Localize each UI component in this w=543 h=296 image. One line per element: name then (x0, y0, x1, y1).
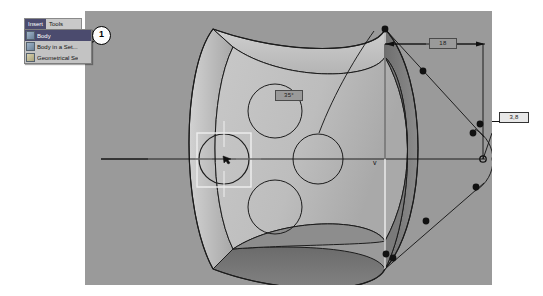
menu-item-geometrical-set-label: Geometrical Se (37, 55, 78, 61)
screenshot-root: v 18 35° 3,8 1 Insert Tools Body (0, 0, 543, 296)
nose-spline (475, 129, 492, 191)
radius-leader-extension (492, 121, 500, 122)
cad-viewport[interactable]: v 18 35° (85, 11, 492, 285)
cad-geometry-canvas[interactable] (85, 11, 492, 285)
control-point (470, 130, 477, 137)
menu-bar-item-insert-label: Insert (28, 20, 43, 29)
insert-dropdown-menu[interactable]: Body Body in a Set... Geometrical Se (24, 29, 92, 64)
body-in-a-set-icon (26, 42, 35, 51)
menu-bar-item-tools-label: Tools (49, 20, 63, 29)
control-point (473, 184, 480, 191)
menu-item-body[interactable]: Body (25, 30, 91, 41)
control-point (390, 255, 397, 262)
callout-balloon-1: 1 (92, 26, 111, 45)
radius-dimension-label[interactable]: 3,8 (499, 112, 529, 123)
control-point (383, 251, 390, 258)
geometrical-set-icon (26, 53, 35, 62)
control-point (423, 218, 430, 225)
body-icon (26, 31, 35, 40)
control-point (420, 68, 427, 75)
menu-bar-item-tools[interactable]: Tools (46, 19, 66, 29)
menu-item-body-label: Body (37, 33, 51, 39)
front-face (215, 47, 408, 249)
menu-bar-item-insert[interactable]: Insert (25, 19, 46, 29)
menu-item-body-in-a-set-label: Body in a Set... (37, 44, 78, 50)
menu-item-geometrical-set[interactable]: Geometrical Se (25, 52, 91, 63)
menu-overlay[interactable]: Insert Tools Body Body in a Set... Geome… (24, 18, 92, 64)
menu-item-body-in-a-set[interactable]: Body in a Set... (25, 41, 91, 52)
bottom-flank-face (213, 247, 385, 285)
menu-bar[interactable]: Insert Tools (24, 18, 82, 29)
control-point (382, 26, 389, 33)
control-point (477, 121, 484, 128)
length-dimension-label[interactable]: 18 (429, 38, 457, 49)
axis-label: v (373, 159, 377, 166)
angle-dimension-label[interactable]: 35° (275, 90, 303, 101)
